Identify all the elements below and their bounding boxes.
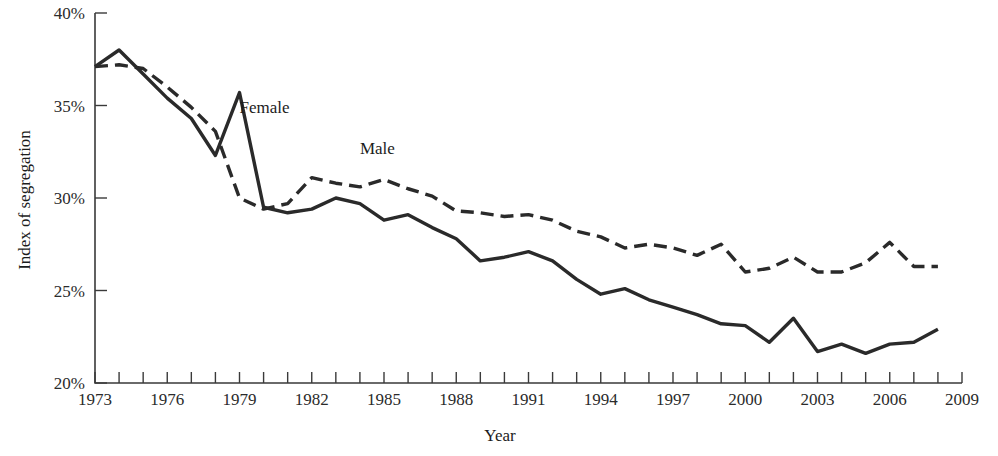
axis-ticks	[95, 13, 962, 383]
y-tick-label: 25%	[54, 282, 85, 301]
chart-container: 40%35%30%25%20% 197319761979198219851988…	[0, 0, 998, 456]
y-axis-tick-labels: 40%35%30%25%20%	[54, 4, 85, 393]
y-axis-title: Index of segregation	[15, 130, 34, 270]
x-tick-label: 1997	[656, 390, 691, 409]
chart-axes	[95, 13, 962, 383]
x-tick-label: 1988	[439, 390, 473, 409]
x-tick-label: 2006	[873, 390, 907, 409]
x-tick-label: 2000	[728, 390, 762, 409]
x-tick-label: 2003	[801, 390, 835, 409]
x-axis-title: Year	[484, 426, 516, 445]
y-tick-label: 35%	[54, 97, 85, 116]
x-tick-label: 1973	[78, 390, 112, 409]
series-label-female: Female	[240, 98, 290, 117]
x-tick-label: 1979	[223, 390, 257, 409]
series-label-male: Male	[360, 139, 395, 158]
y-tick-label: 40%	[54, 4, 85, 23]
x-tick-label: 1976	[150, 390, 184, 409]
data-series-group	[95, 50, 938, 353]
x-tick-label: 1994	[584, 390, 619, 409]
x-tick-label: 1985	[367, 390, 401, 409]
x-axis-tick-labels: 1973197619791982198519881991199419972000…	[78, 390, 979, 409]
x-tick-label: 1991	[512, 390, 546, 409]
x-tick-label: 2009	[945, 390, 979, 409]
y-tick-label: 30%	[54, 189, 85, 208]
line-chart: 40%35%30%25%20% 197319761979198219851988…	[0, 0, 998, 456]
series-line-male	[95, 50, 938, 353]
series-line-female	[95, 65, 938, 272]
series-annotations: FemaleMale	[240, 98, 395, 158]
x-tick-label: 1982	[295, 390, 329, 409]
